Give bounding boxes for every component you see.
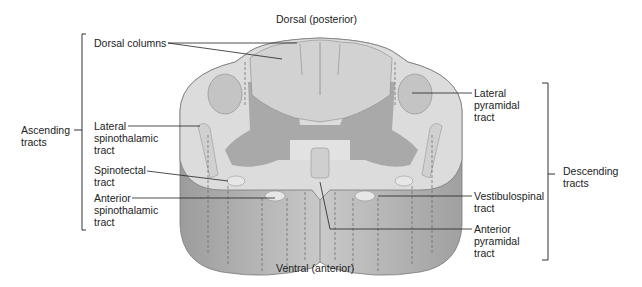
lateral-pyramidal-tract-right (398, 74, 432, 114)
spinotectal-tract-right (395, 176, 413, 186)
spinotectal-tract-left (227, 176, 245, 186)
vestibulospinal-label: Vestibulospinal tract (474, 190, 544, 214)
lateral-spinothalamic-label: Lateral spinothalamic tract (94, 120, 158, 156)
vestibulospinal-tract (355, 191, 375, 201)
anterior-pyramidal-tract (311, 148, 329, 178)
dorsal-posterior-label: Dorsal (posterior) (276, 13, 357, 25)
anterior-pyramidal-label: Anterior pyramidal tract (474, 223, 520, 259)
dorsal-columns-label: Dorsal columns (94, 37, 166, 49)
descending-tracts-label: Descending tracts (563, 165, 618, 189)
lateral-pyramidal-label: Lateral pyramidal tract (474, 87, 520, 123)
ventral-anterior-label: Ventral (anterior) (276, 262, 354, 274)
ascending-bracket (82, 34, 86, 230)
spinotectal-label: Spinotectal tract (94, 164, 146, 188)
lateral-pyramidal-tract-left (208, 74, 242, 114)
anterior-spinothalamic-tract (265, 191, 285, 201)
anterior-spinothalamic-label: Anterior spinothalamic tract (94, 192, 158, 228)
ascending-tracts-label: Ascending tracts (21, 124, 70, 148)
